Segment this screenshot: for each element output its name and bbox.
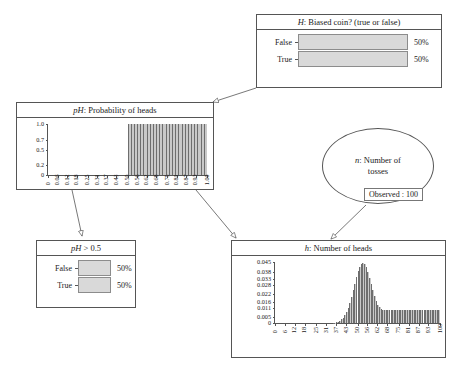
discrete-row[interactable]: False 50%: [42, 260, 130, 276]
chart-h: 00.0050.0110.0160.0220.0280.0330.0380.04…: [232, 256, 445, 359]
y-tick: [273, 317, 276, 318]
ellipse-label: n: Number of tosses: [355, 155, 401, 176]
x-tick: [305, 323, 306, 326]
x-tick-label: 0.81: [173, 175, 179, 186]
y-tick-label: 0.028: [257, 282, 271, 288]
x-tick-label: 68: [384, 327, 390, 333]
x-tick-label: 50: [354, 327, 360, 333]
y-tick-label: 0.005: [257, 314, 271, 320]
node-biased-coin-body: False 50% True 50%: [257, 30, 441, 72]
row-label: False: [262, 38, 295, 47]
y-tick: [46, 140, 49, 141]
x-tick-label: 6: [281, 330, 287, 333]
x-tick: [387, 323, 388, 326]
node-ph-gt-title: pH > 0.5: [37, 241, 135, 256]
x-tick-label: 0: [44, 182, 50, 185]
x-tick: [48, 175, 49, 178]
x-tick: [295, 323, 296, 326]
row-bar: [298, 51, 408, 67]
x-tick-label: 0.62: [143, 175, 149, 186]
x-tick-label: 25: [313, 327, 319, 333]
x-tick-label: 56: [364, 327, 370, 333]
row-percent: 50%: [111, 264, 132, 273]
row-label: True: [262, 55, 295, 64]
y-tick-label: 0.045: [257, 259, 271, 265]
y-tick-label: 0.2: [36, 162, 44, 168]
x-tick-label: 0.12: [63, 175, 69, 186]
node-h-title: h: Number of heads: [232, 241, 445, 256]
x-tick-label: 31: [323, 327, 329, 333]
x-tick-label: 87: [415, 327, 421, 333]
x-tick: [358, 323, 359, 326]
row-percent: 50%: [111, 281, 132, 290]
y-tick-label: 0.022: [257, 291, 271, 297]
x-tick-label: 0.43: [113, 175, 119, 186]
y-tick-label: 0.5: [36, 147, 44, 153]
edge-n-to-h: [331, 205, 366, 239]
x-tick: [316, 323, 317, 326]
y-tick-label: 0.038: [257, 269, 271, 275]
node-ph-title: pH: Probability of heads: [17, 103, 213, 118]
x-tick-label: 81: [405, 327, 411, 333]
x-tick-label: 0.25: [84, 175, 90, 186]
x-tick: [275, 323, 276, 326]
plot-area-ph: 00.20.50.71.000.060.120.180.250.310.370.…: [47, 124, 207, 176]
row-percent: 50%: [408, 55, 429, 64]
chart-bar: [204, 124, 207, 175]
x-tick-label: 0.50: [124, 175, 130, 186]
x-tick: [428, 323, 429, 326]
row-bar: [78, 277, 111, 293]
node-number-of-heads[interactable]: h: Number of heads 00.0050.0110.0160.022…: [231, 240, 446, 358]
discrete-row[interactable]: False 50%: [262, 34, 436, 50]
x-tick: [419, 323, 420, 326]
row-label: True: [42, 281, 75, 290]
discrete-row[interactable]: True 50%: [262, 51, 436, 67]
x-tick-label: 0.06: [54, 175, 60, 186]
node-ph-probability[interactable]: pH: Probability of heads 00.20.50.71.000…: [16, 102, 214, 190]
y-tick: [273, 294, 276, 295]
x-tick-label: 0.31: [94, 175, 100, 186]
x-tick-label: 100: [436, 324, 442, 333]
y-tick-label: 0.7: [36, 137, 44, 143]
node-biased-coin[interactable]: H: Biased coin? (true or false) False 50…: [256, 14, 442, 88]
row-label: False: [42, 264, 75, 273]
x-tick-label: 62: [374, 327, 380, 333]
x-tick-label: 18: [301, 327, 307, 333]
x-tick-label: 0.68: [153, 175, 159, 186]
chart-ph: 00.20.50.71.000.060.120.180.250.310.370.…: [17, 118, 213, 191]
x-tick-label: 0.75: [164, 175, 170, 186]
row-bar: [298, 34, 408, 50]
diagram-canvas: H: Biased coin? (true or false) False 50…: [0, 0, 458, 373]
y-tick-label: 0: [268, 320, 271, 326]
x-tick: [367, 323, 368, 326]
y-tick: [273, 272, 276, 273]
y-tick-label: 0.016: [257, 299, 271, 305]
x-tick: [336, 323, 337, 326]
observed-badge[interactable]: Observed : 100: [364, 188, 423, 201]
chart-bar: [438, 310, 440, 323]
observed-label: Observed : 100: [369, 190, 418, 199]
x-tick-label: 0.18: [73, 175, 79, 186]
x-tick: [409, 323, 410, 326]
x-tick: [377, 323, 378, 326]
plot-area-h: 00.0050.0110.0160.0220.0280.0330.0380.04…: [274, 262, 440, 324]
x-tick-label: 0.37: [103, 175, 109, 186]
node-ph-gt-half[interactable]: pH > 0.5 False 50% True 50%: [36, 240, 136, 308]
x-tick: [399, 323, 400, 326]
y-tick: [46, 165, 49, 166]
x-tick-label: 0.93: [192, 175, 198, 186]
node-biased-coin-title: H: Biased coin? (true or false): [257, 15, 441, 30]
x-tick-label: 0.87: [183, 175, 189, 186]
y-tick: [273, 302, 276, 303]
x-tick-label: 75: [395, 327, 401, 333]
y-tick: [46, 150, 49, 151]
x-tick: [326, 323, 327, 326]
x-tick-label: 12: [291, 327, 297, 333]
discrete-row[interactable]: True 50%: [42, 277, 130, 293]
y-tick: [46, 124, 49, 125]
edge-ph-to-phgt: [72, 190, 82, 236]
row-percent: 50%: [408, 38, 429, 47]
x-tick: [285, 323, 286, 326]
y-tick: [273, 308, 276, 309]
x-tick-label: 37: [332, 327, 338, 333]
